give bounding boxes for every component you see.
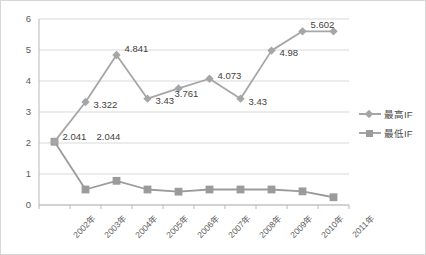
y-axis-tick-label: 4 xyxy=(11,76,31,86)
series-line-highest-if xyxy=(50,27,337,146)
y-axis-tick-label: 3 xyxy=(11,107,31,117)
gridlines xyxy=(39,19,349,205)
data-point-square[interactable] xyxy=(82,186,90,194)
y-axis-tick-label: 5 xyxy=(11,45,31,55)
data-point-square[interactable] xyxy=(144,186,152,194)
y-axis-tick-label: 6 xyxy=(11,14,31,24)
legend-item-highest-if[interactable]: 最高IF xyxy=(359,104,412,123)
data-label: 4.841 xyxy=(125,44,149,54)
y-axis-tick-label: 0 xyxy=(11,200,31,210)
data-point-square[interactable] xyxy=(268,186,276,194)
data-label: 5.602 xyxy=(311,20,335,30)
data-label: 2.041 xyxy=(63,132,87,142)
legend-label-highest-if: 最高IF xyxy=(384,107,412,121)
data-point-square[interactable] xyxy=(237,186,245,194)
chart-legend: 最高IF 最低IF xyxy=(359,104,412,142)
data-point-square[interactable] xyxy=(175,188,183,196)
data-label: 4.073 xyxy=(218,71,242,81)
x-axis-tick-marks xyxy=(39,205,349,209)
data-point-square[interactable] xyxy=(206,186,214,194)
data-label: 4.98 xyxy=(280,48,299,58)
data-point-diamond[interactable] xyxy=(298,27,306,35)
data-label: 3.43 xyxy=(249,97,268,107)
y-axis-tick-label: 2 xyxy=(11,138,31,148)
data-point-square[interactable] xyxy=(330,193,338,201)
data-point-square[interactable] xyxy=(113,177,121,185)
series-path xyxy=(55,142,334,198)
legend-marker-diamond-icon xyxy=(359,109,381,119)
legend-item-lowest-if[interactable]: 最低IF xyxy=(359,123,412,142)
data-label: 3.761 xyxy=(175,89,199,99)
data-point-square[interactable] xyxy=(299,187,307,195)
legend-label-lowest-if: 最低IF xyxy=(384,126,412,140)
data-label: 3.322 xyxy=(94,100,118,110)
chart-container: 6543210 2002年2003年2004年2005年2006年2007年20… xyxy=(0,0,426,255)
data-label: 2.044 xyxy=(97,132,121,142)
legend-marker-square-icon xyxy=(359,128,381,138)
series-line-lowest-if xyxy=(51,138,338,201)
data-label: 3.43 xyxy=(156,96,175,106)
y-axis-tick-label: 1 xyxy=(11,169,31,179)
